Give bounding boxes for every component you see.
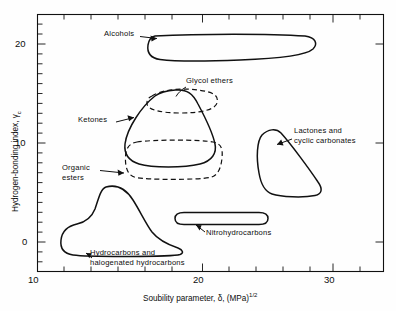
- region-ketones: [125, 90, 216, 167]
- organic-esters-line1: Organic: [62, 163, 90, 173]
- region-label-ketones: Ketones: [78, 115, 107, 124]
- arrowhead-esters: [118, 170, 124, 176]
- hydrocarbons-line2: halogenated hydrocarbons: [90, 258, 185, 268]
- region-label-organic-esters: Organic esters: [62, 163, 90, 182]
- region-label-hydrocarbons: Hydrocarbons and halogenated hydrocarbon…: [90, 248, 185, 267]
- x-tick-label-30: 30: [324, 274, 335, 285]
- x-axis-title-main: Soubility parameter,: [143, 294, 215, 303]
- region-label-alcohols: Alcohols: [104, 29, 134, 38]
- region-label-glycol-ethers: Glycol ethers: [186, 76, 233, 85]
- x-axis-title-exponent: 1/2: [249, 292, 257, 298]
- y-axis-ticks-right: [376, 44, 384, 242]
- y-axis-ticks: [38, 24, 46, 262]
- organic-esters-line2: esters: [62, 173, 90, 183]
- y-tick-label-0: 0: [22, 236, 27, 247]
- arrowhead-nitro: [196, 225, 202, 230]
- region-nitrohydrocarbons: [175, 213, 268, 225]
- x-axis-ticks: [38, 264, 361, 272]
- lactones-line2: cyclic carbonates: [294, 136, 356, 146]
- region-alcohols: [148, 34, 316, 61]
- region-hydrocarbons: [61, 186, 183, 256]
- x-axis-title: Soubility parameter, δ, (MPa)1/2: [143, 292, 257, 303]
- region-organic-esters: [125, 140, 222, 179]
- x-axis-title-unit: , (MPa): [222, 294, 249, 303]
- region-label-nitrohydrocarbons: Nitrohydrocarbons: [206, 228, 271, 237]
- y-axis-title: Hydrogen-bonding index, γc: [11, 111, 22, 212]
- y-tick-label-20: 20: [15, 38, 26, 49]
- x-tick-label-10: 10: [28, 274, 39, 285]
- chart-svg: [0, 0, 396, 311]
- lactones-line1: Lactones and: [294, 126, 356, 136]
- region-glycol-ethers: [147, 89, 217, 113]
- x-axis-ticks-top: [38, 15, 361, 23]
- x-tick-label-20: 20: [193, 274, 204, 285]
- figure-container: Alcohols Glycol ethers Ketones Organic e…: [0, 0, 396, 311]
- arrowhead-ketones: [127, 115, 134, 121]
- y-axis-title-symbol: γ: [11, 114, 20, 118]
- y-axis-title-main: Hydrogen-bonding index,: [11, 121, 20, 213]
- region-label-lactones: Lactones and cyclic carbonates: [294, 126, 356, 145]
- hydrocarbons-line1: Hydrocarbons and: [90, 248, 185, 258]
- y-axis-title-subscript: c: [16, 111, 22, 114]
